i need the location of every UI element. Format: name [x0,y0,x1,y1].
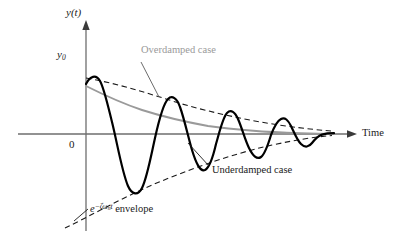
overdamped-case-label: Overdamped case [141,45,216,56]
envelope-label-tail: envelope [115,203,153,214]
initial-value-subscript: 0 [62,53,66,62]
x-axis-label: Time [362,128,384,139]
underdamped-case-label-text: Underdamped case [212,164,292,175]
origin-label-text: 0 [69,138,75,150]
envelope-exponent: −ζωnt [95,202,113,211]
y-axis-label-text: y(t) [66,6,81,18]
origin-label: 0 [69,139,75,150]
y-axis-label: y(t) [66,7,81,18]
envelope-exponent-time: t [110,202,112,211]
underdamped-curve [86,77,334,194]
envelope-exponent-main: −ζω [95,202,108,211]
envelope-label: e−ζωnt envelope [90,203,153,215]
figure-canvas [0,0,409,241]
underdamped-case-label: Underdamped case [212,165,292,176]
underdamped-leader-line [188,143,209,166]
upper-envelope-curve [86,78,332,131]
overdamped-case-label-text: Overdamped case [141,44,216,55]
x-axis-label-text: Time [362,127,384,138]
y-axis-arrowhead [82,20,89,30]
initial-value-label: y0 [57,49,66,61]
damped-response-figure: y(t) y0 0 Time Overdamped case Underdamp… [0,0,409,241]
x-axis-arrowhead [347,130,357,137]
overdamped-curve [86,86,334,134]
